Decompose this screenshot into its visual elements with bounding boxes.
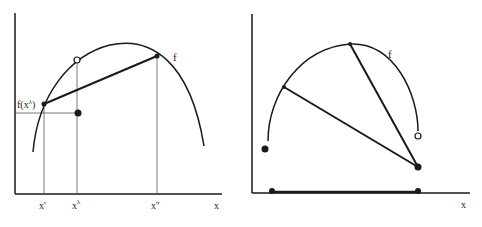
filled-point-x-lambda <box>75 110 82 117</box>
f-x-lambda-label: f(xλ) <box>17 98 35 111</box>
right-chord-top <box>350 44 418 167</box>
left-function-label: f <box>173 51 177 63</box>
domain-right-endpoint <box>415 188 421 194</box>
right-point-top <box>348 42 352 46</box>
right-point-upper-left <box>282 85 286 89</box>
right-open-endpoint <box>415 133 421 139</box>
point-x-prime <box>42 102 47 107</box>
figure: f f(xλ) x' xλ x'' x f x <box>0 0 482 227</box>
right-panel: f x <box>252 14 470 210</box>
right-filled-endpoint <box>415 164 422 171</box>
tick-label-x-lambda: xλ <box>72 198 81 211</box>
open-point-x-lambda <box>74 57 80 63</box>
point-x-double-prime <box>155 54 160 59</box>
right-function-label: f <box>388 48 392 60</box>
left-chord <box>44 56 157 104</box>
left-x-axis-label: x <box>214 200 219 211</box>
right-left-endpoint <box>262 146 269 153</box>
left-panel: f f(xλ) x' xλ x'' x <box>15 13 222 211</box>
domain-left-endpoint <box>269 188 275 194</box>
tick-label-x-double-prime: x'' <box>151 200 160 211</box>
right-chord-left <box>284 87 418 167</box>
right-x-axis-label: x <box>461 199 466 210</box>
tick-label-x-prime: x' <box>39 200 46 211</box>
